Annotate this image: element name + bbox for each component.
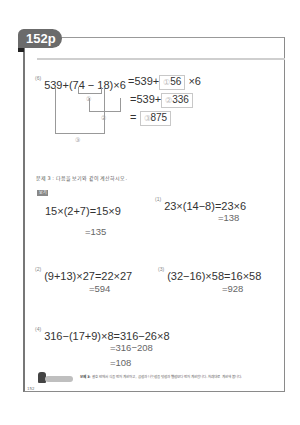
page-number: 152 — [27, 386, 35, 391]
problem-6-step-1: =539+①56 ×6 — [128, 75, 201, 90]
tab-corner-decoration — [18, 48, 24, 52]
footer-note: 문제 3: 괄호 안에서 식을 먼저 계산하고, 곱셈과 나눗셈을 덧셈과 뺄셈… — [80, 374, 242, 379]
example-line-2: =135 — [85, 226, 106, 237]
problem-4-line-2: =316−208 — [110, 342, 153, 353]
bracket-3 — [55, 87, 105, 134]
problem-number: (6) — [35, 75, 41, 81]
problem-6-step-3: = ③875 — [130, 111, 171, 126]
problem-3-line-1: (3)(32−16)×58=16×58 — [158, 266, 261, 284]
answer-box-3: ③875 — [140, 111, 172, 126]
problem-2-line-1: (2)(9+13)×27=22×27 — [35, 266, 132, 284]
answer-box-1: ①56 — [159, 75, 185, 90]
problem-4-line-3: =108 — [110, 357, 131, 368]
example-badge: 보기 — [37, 190, 48, 196]
example-line-1: 15×(2+7)=15×9 — [45, 205, 121, 217]
header-rule — [37, 58, 285, 60]
problem-2-line-2: =594 — [89, 283, 110, 294]
page-tab: 152p — [18, 29, 62, 48]
section-3-instruction: 문제 3 : 다음을 보기와 같이 계산하시오. — [36, 174, 127, 181]
problem-6-step-2: =539+②336 — [130, 93, 193, 108]
problem-1-line-2: =138 — [218, 212, 239, 223]
problem-3-line-2: =928 — [222, 283, 243, 294]
tutor-label-pill — [45, 376, 73, 382]
answer-box-2: ②336 — [161, 93, 193, 108]
bracket-label-3: ③ — [75, 136, 80, 143]
